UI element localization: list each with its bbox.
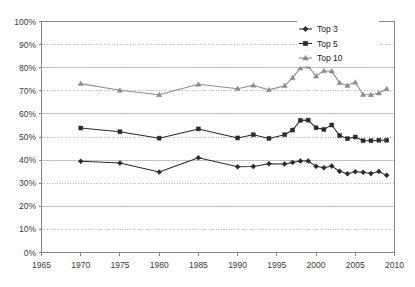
series-marker [298,118,302,122]
series-marker [196,127,200,131]
legend-marker-icon [303,41,307,45]
y-axis-tick-label: 100% [14,17,36,27]
series-marker [377,138,381,142]
series-marker [118,130,122,134]
x-axis-tick-label: 1980 [150,260,169,270]
x-axis-tick-label: 2000 [307,260,326,270]
y-axis-tick-label: 70% [19,86,36,96]
x-axis-tick-label: 2010 [385,260,404,270]
series-marker [157,136,161,140]
x-axis-tick-label: 1970 [71,260,90,270]
series-marker [369,139,373,143]
chart-legend: Top 3Top 5Top 10 [297,19,379,67]
y-axis-tick-label: 30% [19,178,36,188]
series-marker [361,139,365,143]
series-marker [267,136,271,140]
y-axis-tick-label: 80% [19,63,36,73]
series-marker [353,135,357,139]
series-marker [338,134,342,138]
x-axis-tick-label: 1995 [267,260,286,270]
x-axis-tick-label: 1975 [110,260,129,270]
x-axis-tick-label: 1990 [228,260,247,270]
x-axis-tick-label: 1965 [32,260,51,270]
line-chart: 0%10%20%30%40%50%60%70%80%90%100% 196519… [0,0,415,287]
series-marker [283,133,287,137]
series-marker [291,128,295,132]
x-axis-tick-label: 1985 [189,260,208,270]
series-marker [306,118,310,122]
series-marker [314,126,318,130]
chart-container: 0%10%20%30%40%50%60%70%80%90%100% 196519… [0,0,415,287]
y-axis-tick-label: 60% [19,109,36,119]
series-marker [385,138,389,142]
series-marker [251,133,255,137]
x-axis-tick-label: 2005 [346,260,365,270]
series-marker [79,126,83,130]
y-axis-tick-label: 10% [19,224,36,234]
legend-item-label: Top 3 [317,24,338,34]
legend-item-label: Top 10 [317,53,343,63]
y-axis-tick-label: 0% [24,248,37,258]
series-marker [345,137,349,141]
legend-item-label: Top 5 [317,39,338,49]
y-axis-tick-label: 40% [19,155,36,165]
series-marker [330,123,334,127]
y-axis-tick-label: 50% [19,132,36,142]
y-axis-tick-label: 20% [19,201,36,211]
series-marker [236,136,240,140]
y-axis-tick-label: 90% [19,40,36,50]
series-marker [322,127,326,131]
